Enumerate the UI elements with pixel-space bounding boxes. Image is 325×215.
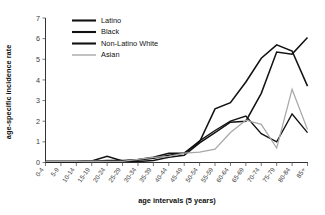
y-tick-label: 7 [36,14,40,23]
legend-label: Asian [101,50,120,59]
y-tick-label: 5 [36,55,40,64]
legend-label: Black [101,27,119,36]
y-tick-label: 1 [36,137,40,146]
y-tick-label: 4 [36,76,40,85]
legend-label: Non-Latino White [101,39,158,48]
y-tick-label: 2 [36,117,40,126]
y-axis-title: age-specific incidence rate [4,45,13,139]
x-axis-title: age intervals (5 years) [138,196,216,205]
chart-background [0,0,325,215]
y-tick-label: 6 [36,34,40,43]
incidence-rate-line-chart: 01234567 0-45-910-1415-1920-2425-2930-34… [0,0,325,215]
chart-figure: 01234567 0-45-910-1415-1920-2425-2930-34… [0,0,325,215]
legend-label: Latino [101,16,121,25]
y-tick-label: 0 [36,158,40,167]
y-tick-label: 3 [36,96,40,105]
